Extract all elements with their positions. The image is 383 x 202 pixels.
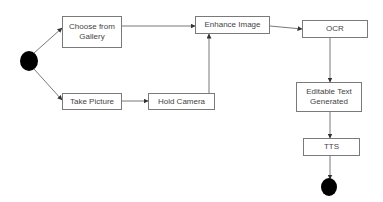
node-label: Hold Camera <box>158 97 205 107</box>
node-editable-text-generated: Editable Text Generated <box>296 82 362 112</box>
node-label: TTS <box>324 142 339 152</box>
edge-start-take <box>34 69 62 100</box>
node-ocr: OCR <box>302 20 368 38</box>
edge-enhance-ocr <box>270 26 302 29</box>
node-hold-camera: Hold Camera <box>148 93 215 110</box>
node-label: Take Picture <box>70 97 114 107</box>
start-node-icon <box>20 51 38 71</box>
end-node-icon <box>321 178 337 196</box>
node-take-picture: Take Picture <box>62 93 122 110</box>
node-enhance-image: Enhance Image <box>195 16 270 34</box>
node-choose-from-gallery: Choose from Gallery <box>62 16 122 48</box>
node-label: Enhance Image <box>204 20 260 30</box>
node-tts: TTS <box>303 138 360 156</box>
node-label: Editable Text Generated <box>306 87 352 107</box>
node-label: Choose from Gallery <box>69 22 115 42</box>
node-label: OCR <box>326 24 344 34</box>
edge-start-gallery <box>34 28 62 53</box>
